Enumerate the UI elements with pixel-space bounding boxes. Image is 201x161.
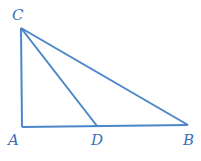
label-B: B — [182, 131, 194, 149]
label-D: D — [90, 131, 103, 149]
triangle-diagram: C A D B — [0, 0, 201, 161]
label-C: C — [12, 6, 24, 24]
segment-CA — [21, 28, 22, 127]
segment-CB — [21, 28, 188, 125]
segment-AB — [22, 125, 188, 127]
label-A: A — [6, 131, 19, 149]
segment-CD — [21, 28, 97, 126]
